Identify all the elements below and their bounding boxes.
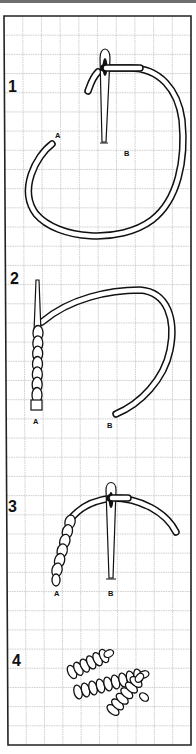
- point-a-1: A: [55, 131, 61, 140]
- knot-end: [138, 691, 150, 703]
- stitch-diagram: 1 A B 2 A B 3: [0, 0, 196, 754]
- point-b-3: B: [108, 589, 114, 598]
- needle-base-2: [31, 400, 42, 410]
- point-a-3: A: [54, 589, 60, 598]
- point-b-1: B: [124, 149, 130, 158]
- thread-coil-end: [52, 574, 60, 586]
- thread-coils-2: [32, 325, 43, 402]
- thread-coils-3: [50, 514, 76, 586]
- step-3: 3 A B: [8, 483, 176, 599]
- point-b-2: B: [107, 421, 113, 430]
- bullion-knots: [65, 648, 150, 718]
- needle-2: [34, 280, 41, 332]
- bullion-knot: [65, 648, 115, 680]
- step-number-2: 2: [10, 270, 19, 287]
- step-number-3: 3: [8, 498, 17, 515]
- needle-1: [100, 49, 140, 143]
- step-2: 2 A B: [10, 270, 172, 430]
- step-number-1: 1: [8, 78, 17, 95]
- point-a-2: A: [33, 417, 39, 426]
- graph-paper-grid: [4, 16, 191, 745]
- step-number-4: 4: [12, 652, 21, 669]
